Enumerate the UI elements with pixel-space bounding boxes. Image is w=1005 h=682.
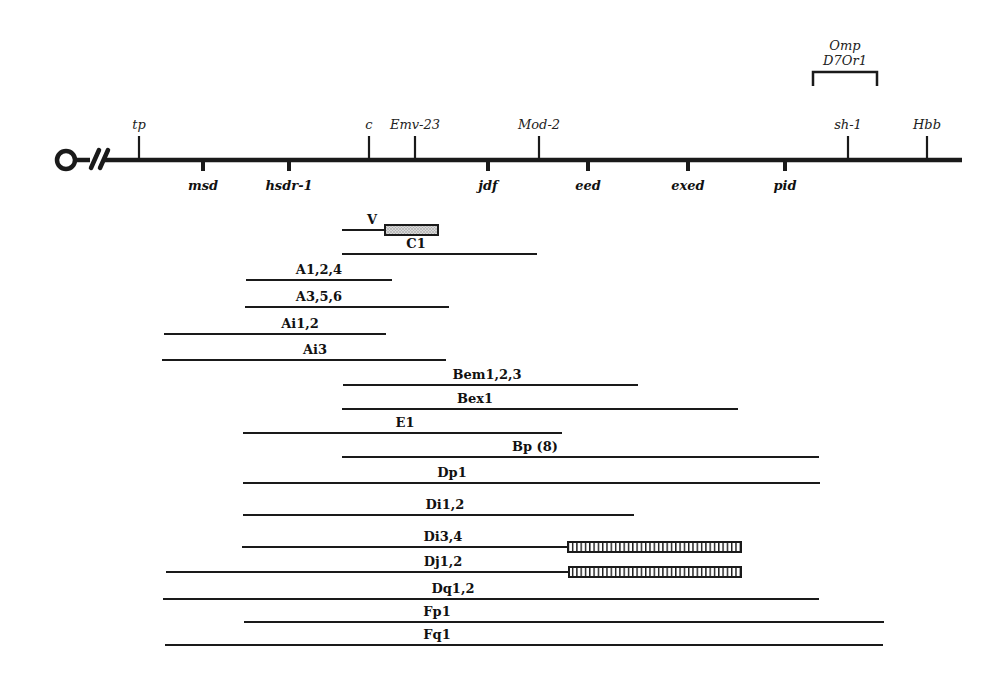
loci-below-group: msdhsdr-1jdfeedexedpid — [188, 160, 797, 193]
deletion-row: Ai3 — [162, 342, 446, 360]
bracket-label-omp: Omp — [829, 38, 861, 53]
deletion-label: A3,5,6 — [295, 289, 342, 304]
uncertain-breakpoint-box — [569, 567, 741, 577]
deletion-label: Bp (8) — [512, 439, 558, 454]
deletion-row: Dq1,2 — [163, 581, 819, 599]
deletion-row: Fp1 — [244, 604, 884, 622]
deletion-label: E1 — [396, 415, 415, 430]
deletion-label: A1,2,4 — [295, 262, 342, 277]
locus-below: exed — [671, 160, 704, 193]
deletion-row: E1 — [243, 415, 562, 433]
deletion-row: A1,2,4 — [246, 262, 392, 280]
locus-above: Hbb — [912, 117, 941, 160]
deletion-row: Dp1 — [243, 465, 820, 483]
locus-label: Mod-2 — [517, 117, 560, 132]
locus-label: sh-1 — [834, 117, 862, 132]
deletion-label: Dp1 — [437, 465, 466, 480]
locus-label: c — [365, 117, 373, 132]
locus-above: Emv-23 — [389, 117, 440, 160]
deletion-label: Bem1,2,3 — [452, 367, 521, 382]
deletion-row: Ai1,2 — [164, 316, 386, 334]
locus-label: hsdr-1 — [265, 178, 312, 193]
deletion-row: Bp (8) — [342, 439, 819, 457]
deletion-label: Di1,2 — [426, 497, 465, 512]
locus-label: tp — [132, 117, 146, 132]
deletion-row: Di3,4 — [242, 529, 741, 552]
deletion-row: Di1,2 — [243, 497, 634, 515]
deletion-label: Fq1 — [423, 627, 450, 642]
locus-above: Mod-2 — [517, 117, 560, 160]
deletion-label: Fp1 — [423, 604, 450, 619]
deletion-label: Ai1,2 — [280, 316, 319, 331]
locus-label: jdf — [475, 178, 500, 193]
deletion-row: A3,5,6 — [245, 289, 449, 307]
deletion-label: Dj1,2 — [424, 554, 463, 569]
locus-above: sh-1 — [834, 117, 862, 160]
uncertain-breakpoint-box — [385, 225, 438, 235]
deletion-row: Fq1 — [165, 627, 883, 645]
locus-label: exed — [671, 178, 704, 193]
locus-above: tp — [132, 117, 146, 160]
locus-label: pid — [773, 178, 796, 193]
locus-label: Emv-23 — [389, 117, 440, 132]
locus-label: Hbb — [912, 117, 941, 132]
locus-below: hsdr-1 — [265, 160, 312, 193]
locus-above: c — [365, 117, 373, 160]
deletion-label: Di3,4 — [424, 529, 463, 544]
locus-below: msd — [188, 160, 218, 193]
locus-below: pid — [773, 160, 796, 193]
omp-d7or1-bracket: Omp D7Or1 — [813, 38, 877, 86]
locus-label: msd — [188, 178, 218, 193]
deletion-label: Dq1,2 — [432, 581, 475, 596]
locus-label: eed — [575, 178, 601, 193]
deletion-row: Bem1,2,3 — [343, 367, 638, 385]
loci-above-group: tpcEmv-23Mod-2sh-1Hbb — [132, 117, 941, 160]
deletion-label: V — [366, 212, 378, 227]
deletion-row: V — [342, 212, 438, 235]
deletion-label: C1 — [406, 236, 425, 251]
deletion-label: Bex1 — [457, 391, 493, 406]
uncertain-breakpoint-box — [568, 542, 741, 552]
bracket-label-d7or1: D7Or1 — [822, 53, 867, 68]
locus-below: jdf — [475, 160, 500, 193]
locus-below: eed — [575, 160, 601, 193]
deletion-row: Bex1 — [342, 391, 738, 409]
deletion-label: Ai3 — [302, 342, 327, 357]
chromosome-deletion-map: tpcEmv-23Mod-2sh-1Hbb msdhsdr-1jdfeedexe… — [0, 0, 1005, 682]
deletion-list: VC1A1,2,4A3,5,6Ai1,2Ai3Bem1,2,3Bex1E1Bp … — [162, 212, 884, 645]
deletion-row: C1 — [342, 236, 537, 254]
centromere-icon — [57, 150, 108, 169]
deletion-row: Dj1,2 — [166, 554, 741, 577]
